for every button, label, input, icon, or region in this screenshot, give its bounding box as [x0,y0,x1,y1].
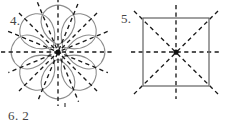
worksheet-page: 4. [0,0,229,127]
figure-4-drawing [0,0,115,106]
figure-5-drawing [112,0,229,106]
square-center-dot [173,49,178,54]
figure-4: 4. [0,0,115,106]
figure-5: 5. [112,0,229,106]
flower-center-dot [55,49,60,54]
answer-line-6: 6. 2 [8,109,29,123]
stray-pencil-mark [64,103,66,107]
